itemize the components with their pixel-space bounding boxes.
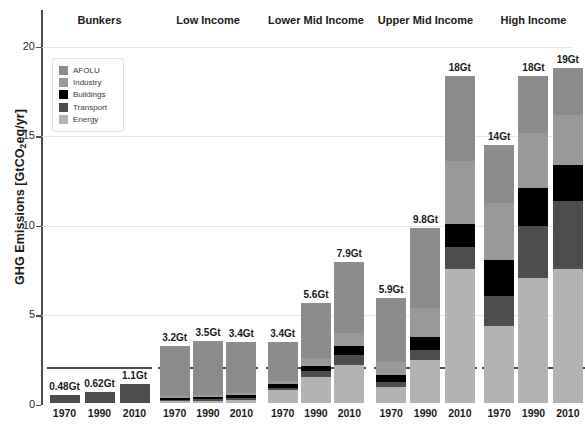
bar-segment-energy: [553, 269, 583, 403]
x-label-group: 197019902010: [47, 407, 152, 427]
x-axis-label-1970: 1970: [268, 407, 298, 427]
y-axis-line: [41, 10, 43, 405]
bar-total-label: 3.4Gt: [270, 328, 295, 339]
bar-total-label: 18Gt: [449, 62, 471, 73]
bar-segment-energy: [518, 278, 548, 403]
bar-segment-buildings: [484, 260, 514, 296]
bar-segment-afolu: [301, 303, 331, 359]
bar-total-label: 9.8Gt: [413, 214, 438, 225]
y-axis-tick: [36, 47, 41, 48]
bar-group-title: Lower Mid Income: [266, 14, 366, 26]
y-axis-tick: [36, 315, 41, 316]
x-label-group: 197019902010: [158, 407, 258, 427]
x-axis-label-1970: 1970: [484, 407, 514, 427]
legend-swatch-icon: [59, 90, 68, 99]
bar-segment-buildings: [410, 337, 440, 350]
y-axis-tick: [36, 226, 41, 227]
stacked-bar[interactable]: 0.62Gt: [85, 392, 115, 403]
bar-segment-afolu: [410, 228, 440, 309]
stacked-bar[interactable]: 3.2Gt: [160, 346, 190, 403]
x-axis-label-2010: 2010: [334, 407, 364, 427]
bar-segment-afolu: [445, 76, 475, 162]
bar-segment-transport: [120, 384, 150, 404]
bar-segment-afolu: [226, 342, 256, 392]
bar-segment-buildings: [518, 188, 548, 226]
legend-label: Industry: [73, 78, 101, 87]
stacked-bar[interactable]: 18Gt: [518, 76, 548, 404]
bar-segment-transport: [518, 226, 548, 278]
bar-segment-afolu: [376, 298, 406, 362]
x-axis-label-1970: 1970: [376, 407, 406, 427]
bar-segment-industry: [376, 362, 406, 375]
bar-segment-transport: [334, 355, 364, 365]
y-axis-tick: [36, 136, 41, 137]
bar-segment-afolu: [268, 342, 298, 381]
bar-segment-afolu: [193, 341, 223, 395]
y-axis-tick-label: 10: [11, 219, 35, 231]
x-axis-label-1970: 1970: [50, 407, 80, 427]
x-axis-label-1990: 1990: [193, 407, 223, 427]
bar-segment-industry: [334, 333, 364, 346]
bar-segment-afolu: [518, 76, 548, 133]
bar-total-label: 3.5Gt: [195, 327, 220, 338]
y-axis-tick-label: 0: [11, 398, 35, 410]
y-axis-tick-label: 5: [11, 308, 35, 320]
bar-segment-energy: [334, 365, 364, 404]
bar-segment-energy: [445, 269, 475, 403]
bar-segment-energy: [376, 387, 406, 403]
legend-label: Energy: [73, 115, 98, 124]
stacked-bar[interactable]: 0.48Gt: [50, 395, 80, 404]
y-axis-tick-label: 15: [11, 129, 35, 141]
bar-segment-buildings: [445, 224, 475, 247]
legend-item[interactable]: Industry: [59, 76, 117, 88]
bar-group-title: Low Income: [158, 14, 258, 26]
legend: AFOLUIndustryBuildingsTransportEnergy: [52, 58, 124, 132]
legend-item[interactable]: Transport: [59, 101, 117, 113]
bar-segment-transport: [484, 296, 514, 326]
bar-segment-afolu: [484, 145, 514, 202]
stacked-bar[interactable]: 9.8Gt: [410, 228, 440, 403]
stacked-bar[interactable]: 3.4Gt: [226, 342, 256, 403]
stacked-bar[interactable]: 3.5Gt: [193, 341, 223, 404]
legend-item[interactable]: AFOLU: [59, 64, 117, 76]
bar-total-label: 3.4Gt: [229, 328, 254, 339]
stacked-bar[interactable]: 7.9Gt: [334, 262, 364, 403]
bar-segment-afolu: [334, 262, 364, 334]
bar-group: High Income14Gt18Gt19Gt: [482, 10, 585, 405]
bar-segment-transport: [410, 350, 440, 360]
bar-segment-industry: [301, 358, 331, 365]
stacked-bar[interactable]: 14Gt: [484, 145, 514, 403]
legend-swatch-icon: [59, 66, 68, 75]
stacked-bar[interactable]: 5.9Gt: [376, 298, 406, 404]
legend-swatch-icon: [59, 103, 68, 112]
bar-segment-industry: [410, 308, 440, 337]
stacked-bar[interactable]: 3.4Gt: [268, 342, 298, 403]
bar-total-label: 14Gt: [488, 131, 510, 142]
bar-group: Low Income3.2Gt3.5Gt3.4Gt: [158, 10, 258, 405]
bar-group-title: Bunkers: [47, 14, 152, 26]
y-axis-title-pre: GHG Emissions [GtCO: [13, 148, 27, 285]
x-axis-label-2010: 2010: [445, 407, 475, 427]
x-axis-label-2010: 2010: [553, 407, 583, 427]
bar-segment-energy: [301, 377, 331, 403]
legend-item[interactable]: Buildings: [59, 89, 117, 101]
x-axis-label-2010: 2010: [226, 407, 256, 427]
bar-total-label: 7.9Gt: [337, 248, 362, 259]
legend-item[interactable]: Energy: [59, 114, 117, 126]
bar-group-title: High Income: [482, 14, 585, 26]
bar-total-label: 0.62Gt: [84, 378, 115, 389]
bar-total-label: 5.6Gt: [303, 289, 328, 300]
stacked-bar[interactable]: 18Gt: [445, 76, 475, 404]
bar-segment-energy: [268, 390, 298, 403]
bar-segment-transport: [50, 395, 80, 404]
legend-label: Transport: [73, 103, 107, 112]
legend-swatch-icon: [59, 78, 68, 87]
stacked-bar[interactable]: 19Gt: [553, 68, 583, 403]
stacked-bar[interactable]: 1.1Gt: [120, 384, 150, 404]
bar-segment-industry: [484, 203, 514, 260]
bar-total-label: 1.1Gt: [122, 370, 147, 381]
legend-label: AFOLU: [73, 66, 100, 75]
stacked-bar[interactable]: 5.6Gt: [301, 303, 331, 403]
bar-segment-energy: [193, 401, 223, 404]
